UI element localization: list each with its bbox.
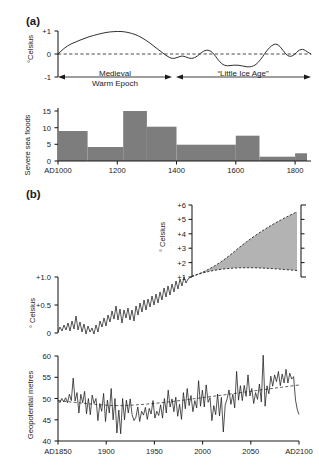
panel-b-label: (b) (26, 188, 41, 200)
table-row (236, 136, 260, 161)
panel-b-temp-curve (58, 276, 192, 334)
panel-a-floods-ylabel: Severe sea floods (23, 114, 32, 175)
little-ice-age-annotation: “Little Ice Age” (176, 69, 311, 79)
geopotential-curve (58, 355, 299, 434)
inset-ticklabel-3: +3 (177, 244, 186, 253)
panel-b-temp-ticklabel-0: +1.0 (36, 273, 51, 282)
table-row (177, 145, 236, 161)
medieval-arrow-head-right (165, 75, 172, 80)
medieval-warm-epoch-line2: Warm Epoch (92, 79, 138, 88)
inset-ticklabel-4: +2 (177, 259, 186, 268)
panel-a-temp-ylabel: °Celsius (26, 35, 35, 63)
table-row (58, 131, 88, 161)
floods-xticklabel-3: 1600 (227, 166, 244, 175)
geo-xticklabel-0: AD1850 (44, 447, 71, 456)
table-row (147, 127, 177, 161)
geo-ticklabel-1: 55 (43, 373, 51, 382)
table-row (295, 153, 307, 161)
medieval-arrow-head-left (58, 75, 65, 80)
panel-a-temp-ticklabel-0: +1 (42, 27, 51, 36)
inset-right-bracket-axis (301, 205, 306, 277)
geopotential-ylabel: Geopotential metres (26, 371, 35, 440)
floods-xticklabel-2: 1400 (168, 166, 185, 175)
floods-xticklabel-1: 1200 (109, 166, 126, 175)
geo-ticklabel-0: 60 (43, 352, 51, 361)
geo-xticklabel-4: 2050 (242, 447, 259, 456)
panel-b: (b) ° Celsius +6 +5 +4 +3 +2 +1 (26, 188, 313, 456)
panel-a-temp-ticklabel-2: -1 (44, 73, 51, 82)
little-ice-age-label: “Little Ice Age” (217, 69, 268, 78)
geo-xticklabel-5: AD2100 (285, 447, 312, 456)
panel-b-geopotential-chart: Geopotential metres 60 55 50 45 40 (26, 352, 313, 456)
lia-arrow-head-left (176, 75, 183, 80)
medieval-warm-epoch-line1: Medieval (99, 69, 131, 78)
panel-a-temp-curve (58, 31, 311, 66)
panel-a: (a) °Celsius +1 0 -1 (23, 15, 311, 175)
panel-a-label: (a) (26, 15, 40, 27)
panel-a-flood-bars (58, 111, 307, 161)
geo-xticklabel-3: 2000 (194, 447, 211, 456)
panel-b-temperature-chart: ° Celsius +1.0 +0.5 0 (28, 273, 192, 338)
table-row (260, 157, 296, 161)
panel-b-temp-ticklabel-1: +0.5 (36, 301, 51, 310)
geo-ticklabel-3: 45 (43, 416, 51, 425)
panel-a-temp-ticklabel-1: 0 (47, 50, 51, 59)
table-row (88, 147, 124, 161)
table-row (123, 111, 147, 161)
floods-xticklabel-4: 1800 (287, 166, 304, 175)
inset-ticklabel-0: +6 (177, 201, 186, 210)
floods-xticklabel-0: AD1000 (44, 166, 71, 175)
inset-ticklabel-1: +5 (177, 215, 186, 224)
geo-xticklabel-1: 1900 (98, 447, 115, 456)
panel-b-inset-chart: ° Celsius +6 +5 +4 +3 +2 +1 (158, 201, 306, 282)
panel-a-floods-chart: Severe sea floods 15 10 5 0 (23, 107, 311, 175)
climate-figure: (a) °Celsius +1 0 -1 (0, 0, 319, 476)
inset-fan-area (192, 212, 297, 276)
figure-svg: (a) °Celsius +1 0 -1 (0, 0, 319, 476)
floods-ticklabel-2: 5 (47, 140, 51, 149)
floods-ticklabel-1: 10 (43, 124, 51, 133)
inset-ticklabel-5: +1 (177, 273, 186, 282)
geo-ticklabel-2: 50 (43, 395, 51, 404)
geo-xticklabel-2: 1950 (146, 447, 163, 456)
lia-arrow-head-right (304, 75, 311, 80)
inset-ticklabel-2: +4 (177, 230, 186, 239)
medieval-warm-epoch-annotation: Medieval Warm Epoch (58, 69, 172, 88)
geo-ticklabel-4: 40 (43, 437, 51, 446)
panel-b-temp-ticklabel-2: 0 (47, 329, 51, 338)
floods-ticklabel-0: 15 (43, 107, 51, 116)
inset-ylabel: ° Celsius (158, 222, 167, 252)
floods-ticklabel-3: 0 (47, 157, 51, 166)
panel-a-epoch-annotations: Medieval Warm Epoch “Little Ice Age” (58, 69, 311, 88)
